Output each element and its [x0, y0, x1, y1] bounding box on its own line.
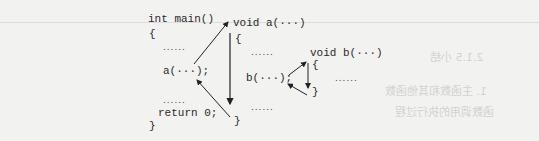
flow-arrows	[0, 0, 539, 141]
call-arrow-main-to-a	[194, 22, 228, 64]
return-arrow-a-to-main	[197, 80, 230, 117]
return-arrow-b-to-a	[288, 84, 307, 95]
call-arrow-a-to-b	[289, 62, 306, 75]
